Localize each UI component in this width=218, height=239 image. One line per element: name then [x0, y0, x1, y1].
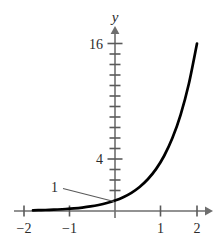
annotation-leader-line [63, 189, 114, 202]
y-axis-arrowhead [111, 26, 120, 34]
x-tick-label-pos2: 2 [194, 221, 201, 236]
plot-canvas: y 16 4 −2 −1 1 2 1 [0, 0, 218, 239]
x-tick-label-neg1: −1 [62, 221, 77, 236]
y-intercept-annotation-label: 1 [51, 180, 58, 195]
x-tick-label-pos1: 1 [157, 221, 164, 236]
y-tick-label-16: 16 [89, 37, 103, 52]
exponential-graph-figure: y 16 4 −2 −1 1 2 1 [0, 0, 218, 239]
y-tick-label-4: 4 [96, 152, 103, 167]
y-axis-label: y [110, 9, 119, 25]
x-axis-arrowhead [205, 207, 213, 216]
x-tick-label-neg2: −2 [17, 221, 32, 236]
